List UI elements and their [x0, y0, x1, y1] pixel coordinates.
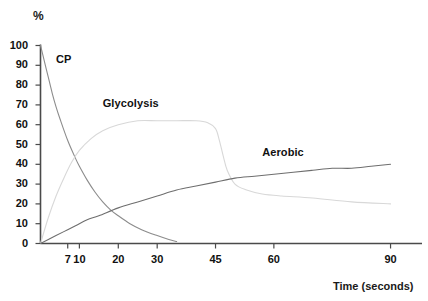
y-tick-label: 90 [0, 58, 28, 70]
y-tick-label: 100 [0, 39, 28, 51]
y-tick-label: 80 [0, 78, 28, 90]
x-tick-label: 45 [203, 253, 229, 265]
y-tick-label: 30 [0, 177, 28, 189]
y-tick-label: 50 [0, 138, 28, 150]
series-label-aerobic: Aerobic [262, 146, 304, 158]
y-tick-label: 10 [0, 217, 28, 229]
series-label-cp: CP [56, 53, 71, 65]
x-tick-label: 90 [378, 253, 404, 265]
series-line-aerobic [41, 164, 391, 243]
x-axis-title: Time (seconds) [333, 280, 414, 292]
y-tick-label: 20 [0, 197, 28, 209]
chart-screenshot: % 0102030405060708090100 7102030456090 C… [0, 0, 428, 301]
y-tick-label: 40 [0, 157, 28, 169]
x-tick-label: 60 [261, 253, 287, 265]
series-label-glycolysis: Glycolysis [103, 97, 159, 109]
x-tick-label: 10 [66, 253, 92, 265]
y-tick-label: 70 [0, 98, 28, 110]
x-tick-label: 20 [105, 253, 131, 265]
y-tick-label: 60 [0, 118, 28, 130]
x-tick-label: 30 [144, 253, 170, 265]
y-tick-label: 0 [0, 237, 28, 249]
chart-curves [41, 46, 391, 244]
